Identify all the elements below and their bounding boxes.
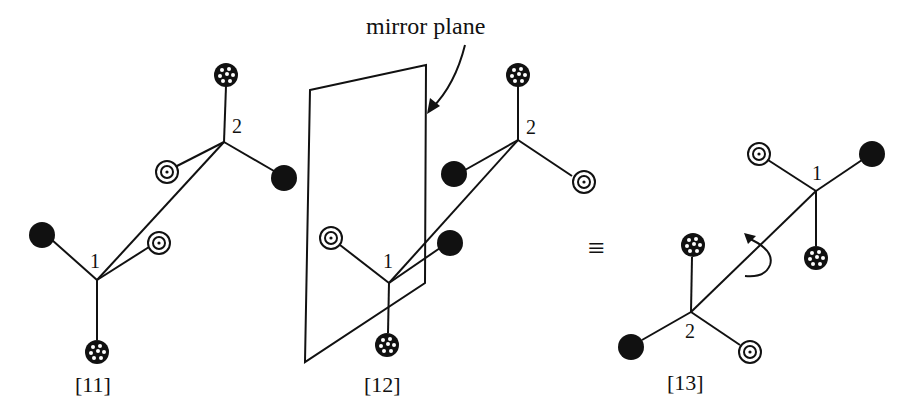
double-circle-substituent <box>739 341 761 363</box>
dotted-substituent <box>681 233 705 257</box>
structure-13 <box>642 160 862 345</box>
structure-label-13: [13] <box>667 370 704 395</box>
double-circle-substituent <box>320 227 342 249</box>
mirror-plane-label: mirror plane <box>366 13 485 39</box>
double-circle-substituent <box>156 161 178 183</box>
black-substituent <box>437 230 463 256</box>
stereochemistry-figure: 1 2 [11] mirror plane 1 2 [12] ≡ <box>0 0 908 412</box>
double-circle-substituent <box>748 143 770 165</box>
black-substituent <box>618 334 644 360</box>
mirror-plane-arrow <box>427 45 465 114</box>
black-substituent <box>29 222 55 248</box>
dotted-substituent <box>375 333 399 357</box>
equivalence-symbol: ≡ <box>588 231 605 264</box>
mirror-plane <box>305 65 426 362</box>
dotted-substituent <box>214 63 238 87</box>
center-label-2: 2 <box>685 320 695 342</box>
dotted-substituent <box>804 246 828 270</box>
structure-12 <box>340 86 572 333</box>
structure-label-12: [12] <box>364 372 401 397</box>
center-label-1: 1 <box>812 162 822 184</box>
center-label-2: 2 <box>232 115 242 137</box>
center-label-1: 1 <box>383 250 393 272</box>
center-label-2: 2 <box>526 116 536 138</box>
black-substituent <box>859 141 885 167</box>
dotted-substituent <box>506 63 530 87</box>
double-circle-substituent <box>573 171 595 193</box>
structure-label-11: [11] <box>75 372 111 397</box>
dotted-substituent <box>85 340 109 364</box>
center-label-1: 1 <box>90 250 100 272</box>
black-substituent <box>271 165 297 191</box>
black-substituent <box>441 161 467 187</box>
double-circle-substituent <box>148 232 170 254</box>
